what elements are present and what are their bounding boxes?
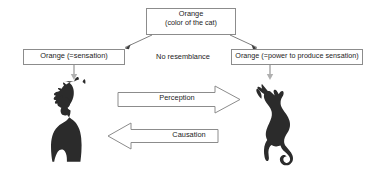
right-box	[232, 50, 363, 65]
left-box	[24, 50, 125, 65]
causation-block-arrow	[108, 123, 218, 149]
connector-top-to-right	[230, 35, 257, 49]
diagram-vector-layer	[0, 0, 382, 179]
top-box	[147, 9, 236, 35]
girl-silhouette-figure	[51, 77, 85, 162]
connector-right-box-to-cat	[267, 65, 273, 80]
diagram-canvas-root: Orange (color of the cat) Orange (=sensa…	[0, 0, 382, 179]
connector-top-to-left	[125, 35, 152, 49]
perception-block-arrow	[118, 86, 240, 113]
cat-silhouette-figure	[256, 84, 293, 165]
